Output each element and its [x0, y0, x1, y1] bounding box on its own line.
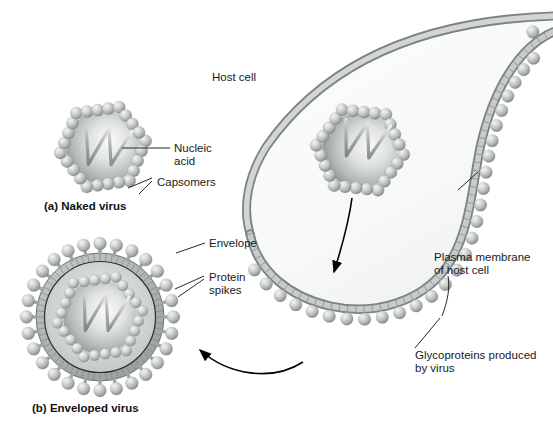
sphere-icon — [393, 138, 405, 150]
sphere-icon — [274, 289, 287, 302]
sphere-icon — [160, 279, 173, 292]
label-capsomers: Capsomers — [157, 176, 216, 188]
sphere-icon — [139, 368, 152, 381]
sphere-icon — [91, 179, 103, 191]
sphere-icon — [358, 313, 371, 326]
sphere-icon — [527, 52, 540, 65]
sphere-icon — [129, 326, 140, 337]
sphere-icon — [151, 265, 164, 278]
sphere-icon — [48, 368, 61, 381]
label-plasma-membrane-line1: Plasma membrane — [434, 251, 531, 263]
sphere-icon — [471, 215, 484, 228]
sphere-icon — [347, 105, 359, 117]
release-arrow — [200, 350, 303, 374]
sphere-icon — [79, 276, 90, 287]
sphere-icon — [410, 300, 423, 313]
sphere-icon — [133, 316, 144, 327]
sphere-icon — [52, 318, 63, 329]
sphere-icon — [495, 104, 508, 117]
label-nucleic-acid-line2: acid — [174, 155, 195, 167]
sphere-icon — [89, 350, 100, 361]
sphere-icon — [306, 305, 319, 318]
sphere-icon — [110, 347, 121, 358]
sphere-icon — [60, 298, 71, 309]
sphere-icon — [48, 253, 61, 266]
sphere-icon — [125, 377, 138, 390]
label-envelope: Envelope — [209, 237, 257, 249]
label-protein-spikes-line1: Protein — [209, 271, 245, 283]
sphere-icon — [81, 105, 93, 117]
sphere-icon — [160, 342, 173, 355]
sphere-icon — [110, 382, 123, 395]
sphere-icon — [466, 232, 479, 245]
sphere-icon — [56, 308, 67, 319]
sphere-icon — [100, 348, 111, 359]
sphere-icon — [131, 297, 142, 308]
sphere-icon — [527, 26, 540, 39]
leader-glycoproteins — [415, 318, 440, 348]
sphere-icon — [517, 63, 530, 76]
sphere-icon — [89, 275, 100, 286]
sphere-icon — [151, 356, 164, 369]
sphere-icon — [372, 184, 384, 196]
sphere-icon — [260, 278, 273, 291]
sphere-icon — [102, 178, 114, 190]
label-plasma-membrane-line2: of host cell — [434, 264, 489, 276]
sphere-icon — [486, 134, 499, 147]
sphere-icon — [77, 239, 90, 252]
sphere-icon — [369, 107, 381, 119]
label-glycoproteins-line1: Glycoproteins produced — [415, 349, 536, 361]
caption-b: (b) Enveloped virus — [32, 402, 139, 414]
sphere-icon — [502, 90, 515, 103]
figure-canvas: Host cell Nucleic acid Capsomers Envelop… — [0, 0, 553, 435]
sphere-icon — [165, 294, 178, 307]
sphere-icon — [102, 102, 114, 114]
sphere-icon — [248, 264, 261, 277]
sphere-icon — [64, 288, 75, 299]
sphere-icon — [480, 166, 493, 179]
sphere-icon — [165, 327, 178, 340]
sphere-icon — [336, 104, 348, 116]
sphere-icon — [289, 298, 302, 311]
sphere-icon — [110, 239, 123, 252]
caption-a: (a) Naked virus — [44, 200, 126, 212]
sphere-icon — [36, 356, 49, 369]
sphere-icon — [70, 107, 82, 119]
sphere-icon — [27, 279, 40, 292]
sphere-icon — [323, 310, 336, 323]
sphere-icon — [113, 176, 125, 188]
sphere-icon — [62, 377, 75, 390]
sphere-icon — [477, 182, 490, 195]
label-glycoproteins-line2: by virus — [415, 362, 455, 374]
enveloped-virus — [20, 237, 180, 397]
sphere-icon — [125, 244, 138, 257]
sphere-icon — [361, 183, 373, 195]
leader-envelope — [176, 243, 205, 253]
sphere-icon — [20, 311, 33, 324]
sphere-icon — [341, 313, 354, 326]
sphere-icon — [94, 384, 107, 397]
sphere-icon — [94, 237, 107, 250]
naked-virus — [54, 101, 152, 193]
sphere-icon — [133, 126, 145, 138]
label-protein-spikes-line2: spikes — [209, 284, 242, 296]
sphere-icon — [483, 150, 496, 163]
sphere-icon — [474, 199, 487, 212]
sphere-icon — [339, 181, 351, 193]
sphere-icon — [139, 253, 152, 266]
sphere-icon — [167, 311, 180, 324]
sphere-icon — [439, 278, 452, 291]
label-host-cell: Host cell — [212, 71, 256, 83]
sphere-icon — [22, 327, 35, 340]
sphere-icon — [27, 342, 40, 355]
sphere-icon — [100, 273, 111, 284]
sphere-icon — [22, 294, 35, 307]
sphere-icon — [376, 311, 389, 324]
sphere-icon — [92, 104, 104, 116]
sphere-icon — [125, 336, 136, 347]
sphere-icon — [350, 182, 362, 194]
sphere-icon — [77, 382, 90, 395]
sphere-icon — [121, 345, 132, 356]
sphere-icon — [68, 278, 79, 289]
sphere-icon — [358, 106, 370, 118]
